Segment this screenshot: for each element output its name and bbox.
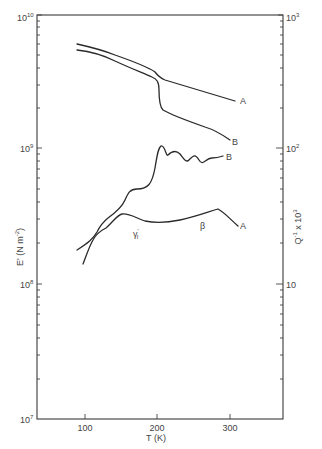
y-right-tick-1e3: 103 xyxy=(286,12,300,23)
right-axis-ticks xyxy=(276,15,283,379)
label-beta-peak: β xyxy=(200,221,205,231)
x-tick-100: 100 xyxy=(77,423,92,433)
y-left-tick-1e8: 108 xyxy=(20,279,34,290)
label-gamma-peak: γ'I xyxy=(133,228,139,240)
y-left-axis-title: E' (N m-2) xyxy=(14,228,25,266)
y-right-tick-1e2: 102 xyxy=(286,143,300,154)
y-left-tick-1e7: 107 xyxy=(20,414,34,425)
left-axis-ticks xyxy=(37,15,42,379)
label-curve-a-loss: A xyxy=(240,221,246,231)
label-curve-b-loss: B xyxy=(226,152,232,162)
label-curve-b-modulus: B xyxy=(232,137,238,147)
x-axis-title: T (K) xyxy=(146,433,166,443)
curve-e-modulus-a xyxy=(77,44,235,101)
x-tick-200: 200 xyxy=(149,423,164,433)
x-tick-300: 300 xyxy=(222,423,237,433)
y-right-tick-10: 10 xyxy=(286,280,296,290)
y-left-tick-1e9: 109 xyxy=(20,143,34,154)
y-left-tick-1e10: 1010 xyxy=(17,12,34,23)
curve-loss-a xyxy=(83,209,238,264)
label-curve-a-modulus: A xyxy=(240,96,246,106)
chart: 1010 109 108 107 103 102 10 100 200 300 … xyxy=(0,0,322,449)
curve-loss-b xyxy=(77,146,223,250)
y-right-axis-title: Q-1 x 103 xyxy=(292,209,303,245)
curve-e-modulus-b xyxy=(77,50,230,140)
x-axis-ticks xyxy=(85,414,230,419)
plot-frame xyxy=(37,15,283,419)
